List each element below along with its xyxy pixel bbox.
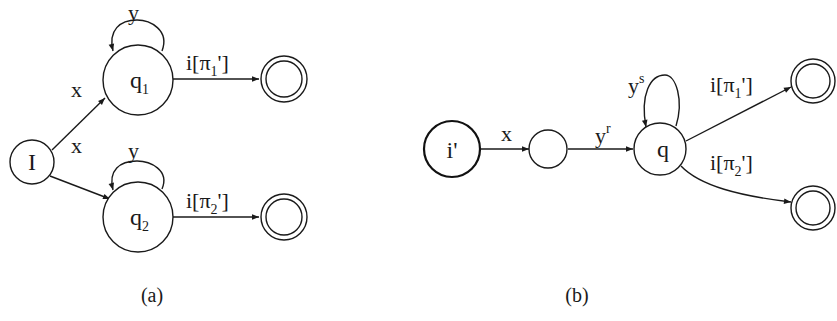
label-edge-I-q2: x <box>71 133 82 158</box>
accepting-state-b1 <box>791 59 835 103</box>
figure-a: I q1 q2 x x y y i[π1'] i[π2'] (a) <box>10 0 307 307</box>
label-edge-mid-q: yr <box>595 121 611 148</box>
accepting-state-1 <box>261 56 307 102</box>
accepting-state-2 <box>261 194 307 240</box>
figure-b: i' q x yr ys i[π1'] i[π2'] (b) <box>424 59 835 307</box>
label-loop-q1: y <box>128 0 139 25</box>
label-edge-q2-accept: i[π2'] <box>186 188 229 217</box>
intermediate-state <box>529 130 567 168</box>
label-edge-q1-accept: i[π1'] <box>186 50 229 79</box>
edge-I-q2 <box>50 176 110 199</box>
label-q: q <box>657 136 669 162</box>
label-I: I <box>28 149 36 175</box>
label-loop-q2: y <box>128 138 139 163</box>
caption-a: (a) <box>141 284 163 307</box>
caption-b: (b) <box>565 284 588 307</box>
label-edge-I-q1: x <box>71 77 82 102</box>
label-i-prime: i' <box>447 137 458 163</box>
label-loop-q: ys <box>628 71 644 98</box>
self-loop-q <box>644 75 679 127</box>
label-edge-q-accept2: i[π2'] <box>710 150 753 179</box>
accepting-state-b2 <box>791 186 835 230</box>
label-edge-q-accept1: i[π1'] <box>710 72 753 101</box>
label-edge-i-mid: x <box>501 121 512 146</box>
automata-figure: I q1 q2 x x y y i[π1'] i[π2'] (a) <box>0 0 837 321</box>
